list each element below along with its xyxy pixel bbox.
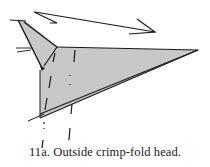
crimp-motion-marks (16, 48, 32, 52)
origami-diagram (0, 0, 210, 167)
step-caption: 11a. Outside crimp-fold head. (0, 145, 210, 160)
motion-arrow (34, 12, 155, 34)
